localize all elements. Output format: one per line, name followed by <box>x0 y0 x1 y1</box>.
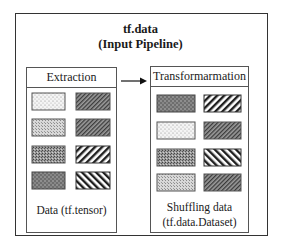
swatch-light-gray-stipple <box>32 119 65 136</box>
swatch-dense-diagonal <box>76 119 110 136</box>
swatch-dense-diagonal <box>76 93 110 110</box>
transformation-header: Transformarmation <box>151 67 248 87</box>
swatch-dark-dots <box>32 172 65 189</box>
transformation-panel: Transformarmation Shuffling data (tf.dat… <box>150 66 249 233</box>
swatch-slash-stripes <box>76 172 110 189</box>
swatch-medium-gray-stipple <box>32 146 65 163</box>
swatch-backslash-stripes <box>76 146 110 163</box>
transformation-caption-line1: Shuffling data <box>151 200 248 214</box>
swatch-light-dots <box>32 93 65 110</box>
arrow-right-icon <box>121 77 147 85</box>
transformation-caption-line2: (tf.data.Dataset) <box>151 215 248 229</box>
